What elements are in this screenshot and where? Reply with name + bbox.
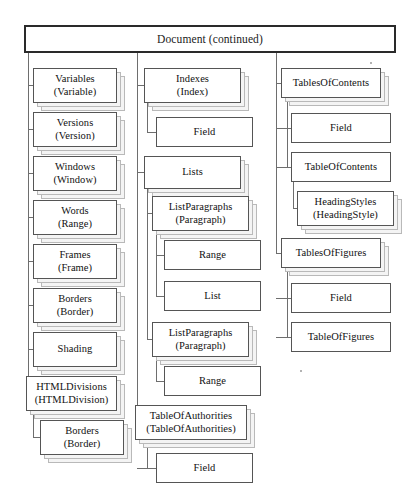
node-label: Borders — [58, 293, 92, 305]
node-tableofcontents[interactable]: TableOfContents — [291, 152, 391, 182]
subtrunk-tof-children — [287, 268, 288, 337]
node-borders-2[interactable]: Borders(Border) — [40, 420, 124, 455]
scan-speck — [300, 370, 302, 372]
node-borders-1[interactable]: Borders(Border) — [33, 288, 117, 323]
node-label: Field — [330, 292, 352, 304]
node-type-label: (Border) — [57, 306, 94, 318]
node-type-label: (HTMLDivision) — [35, 394, 109, 406]
node-label: Indexes — [176, 73, 209, 85]
node-face: ListParagraphs(Paragraph) — [152, 196, 249, 231]
node-label: ListParagraphs — [169, 327, 233, 339]
trunk-middle-column — [137, 53, 138, 425]
node-field-tof[interactable]: Field — [291, 283, 391, 313]
connector-indexes — [137, 85, 144, 86]
node-label: Field — [194, 126, 216, 138]
diagram-header-label: Document (continued) — [157, 33, 263, 45]
connector-borders-2 — [33, 437, 40, 438]
connector-range-2 — [156, 381, 164, 382]
node-face: Words(Range) — [33, 200, 117, 235]
node-face: TablesOfFigures — [281, 238, 381, 268]
node-type-label: (Range) — [58, 218, 92, 230]
node-tableoffigures[interactable]: TableOfFigures — [291, 322, 391, 352]
connector-list — [156, 296, 164, 297]
node-field-toc[interactable]: Field — [291, 113, 391, 143]
node-type-label: (Window) — [53, 174, 96, 186]
node-label: List — [204, 290, 221, 302]
node-face: TableOfContents — [291, 152, 391, 182]
node-face: Borders(Border) — [40, 420, 124, 455]
node-listparagraphs-2[interactable]: ListParagraphs(Paragraph) — [152, 322, 249, 357]
node-face: Windows(Window) — [33, 156, 117, 191]
node-label: Field — [194, 462, 216, 474]
subtrunk-listparagraphs-1-children — [156, 231, 157, 296]
node-face: TableOfFigures — [291, 322, 391, 352]
node-frames[interactable]: Frames(Frame) — [33, 244, 117, 279]
node-lists[interactable]: Lists — [144, 156, 241, 189]
node-label: Variables — [55, 73, 95, 85]
subtrunk-tableofcontents-children — [293, 182, 294, 208]
node-label: HTMLDivisions — [36, 381, 107, 393]
node-face: Range — [164, 366, 261, 396]
diagram-header-document-continued: Document (continued) — [24, 25, 396, 53]
node-face: Variables(Variable) — [33, 68, 117, 103]
node-field-toa[interactable]: Field — [156, 453, 253, 483]
node-label: TableOfContents — [305, 161, 377, 173]
node-face: Field — [156, 117, 253, 147]
node-windows[interactable]: Windows(Window) — [33, 156, 117, 191]
node-face: Shading — [33, 332, 117, 367]
subtrunk-toc-children — [287, 98, 288, 167]
node-face: Indexes(Index) — [144, 68, 241, 103]
node-face: Borders(Border) — [33, 288, 117, 323]
node-type-label: (TableOfAuthorities) — [146, 423, 236, 435]
node-face: List — [164, 281, 261, 311]
node-tablesofcontents[interactable]: TablesOfContents — [281, 68, 381, 98]
node-label: Words — [61, 205, 88, 217]
trunk-left-column — [28, 53, 29, 408]
node-variables[interactable]: Variables(Variable) — [33, 68, 117, 103]
subtrunk-lists-children — [147, 189, 148, 339]
node-type-label: (Variable) — [54, 86, 96, 98]
connector-tableoffigures — [276, 337, 291, 338]
node-label: Range — [199, 249, 226, 261]
node-field-idx[interactable]: Field — [156, 117, 253, 147]
node-shading[interactable]: Shading — [33, 332, 117, 367]
node-label: Frames — [59, 249, 90, 261]
node-type-label: (Paragraph) — [175, 214, 225, 226]
subtrunk-indexes-children — [147, 103, 148, 132]
node-type-label: (HeadingStyle) — [313, 209, 378, 221]
node-tableofauthorities[interactable]: TableOfAuthorities(TableOfAuthorities) — [135, 405, 247, 440]
node-htmldivisions[interactable]: HTMLDivisions(HTMLDivision) — [26, 376, 117, 411]
node-face: Field — [291, 113, 391, 143]
node-range-1[interactable]: Range — [164, 240, 261, 270]
connector-field-toa — [137, 468, 156, 469]
node-label: Versions — [57, 117, 94, 129]
node-label: Borders — [65, 425, 99, 437]
node-headingstyles[interactable]: HeadingStyles(HeadingStyle) — [297, 191, 394, 226]
node-face: Range — [164, 240, 261, 270]
node-list[interactable]: List — [164, 281, 261, 311]
node-label: Shading — [58, 343, 93, 355]
node-listparagraphs-1[interactable]: ListParagraphs(Paragraph) — [152, 196, 249, 231]
node-label: TablesOfContents — [293, 77, 369, 89]
node-face: TableOfAuthorities(TableOfAuthorities) — [135, 405, 247, 440]
node-type-label: (Index) — [177, 86, 208, 98]
node-type-label: (Version) — [55, 130, 95, 142]
node-tablesoffigures[interactable]: TablesOfFigures — [281, 238, 381, 268]
node-type-label: (Frame) — [58, 262, 92, 274]
node-face: ListParagraphs(Paragraph) — [152, 322, 249, 357]
node-face: Lists — [144, 156, 241, 189]
connector-field-idx — [147, 132, 156, 133]
scan-speck — [370, 62, 372, 64]
node-face: Field — [291, 283, 391, 313]
node-label: Windows — [55, 161, 95, 173]
node-versions[interactable]: Versions(Version) — [33, 112, 117, 147]
node-label: TableOfAuthorities — [150, 410, 232, 422]
node-words[interactable]: Words(Range) — [33, 200, 117, 235]
connector-field-tof — [276, 298, 291, 299]
node-type-label: (Paragraph) — [175, 340, 225, 352]
node-indexes[interactable]: Indexes(Index) — [144, 68, 241, 103]
node-range-2[interactable]: Range — [164, 366, 261, 396]
node-label: Field — [330, 122, 352, 134]
node-type-label: (Border) — [64, 438, 101, 450]
node-face: HeadingStyles(HeadingStyle) — [297, 191, 394, 226]
